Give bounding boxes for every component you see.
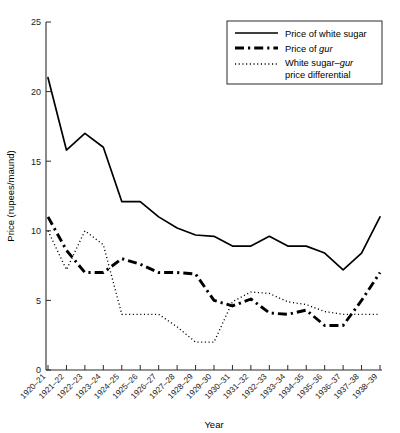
line-chart-svg: 0 5 10 15 20 25 Price (rupees/maund) 192… bbox=[0, 0, 400, 433]
x-axis-title: Year bbox=[204, 419, 223, 430]
chart-figure: 0 5 10 15 20 25 Price (rupees/maund) 192… bbox=[0, 0, 400, 433]
y-tick-label-25: 25 bbox=[31, 17, 41, 27]
y-axis-ticks: 0 5 10 15 20 25 bbox=[31, 17, 51, 375]
legend-label-gur: Price of gur bbox=[285, 44, 333, 54]
legend: Price of white sugar Price of gur White … bbox=[227, 21, 382, 84]
y-tick-label-15: 15 bbox=[31, 157, 41, 167]
series-line-price-of-gur bbox=[48, 217, 380, 326]
y-tick-label-10: 10 bbox=[31, 226, 41, 236]
x-axis-tick-labels: 1920–211921–221922–231923–241924–251925–… bbox=[19, 372, 380, 401]
y-axis-title: Price (rupees/maund) bbox=[5, 150, 16, 241]
y-tick-label-20: 20 bbox=[31, 87, 41, 97]
y-tick-label-5: 5 bbox=[36, 296, 41, 306]
x-axis-ticks bbox=[48, 365, 380, 370]
legend-label-differential-line2: price differential bbox=[285, 70, 350, 80]
series-line-price-of-white-sugar bbox=[48, 78, 380, 270]
legend-label-differential-line1: White sugar–gur bbox=[285, 58, 354, 68]
legend-label-white-sugar: Price of white sugar bbox=[285, 29, 367, 39]
